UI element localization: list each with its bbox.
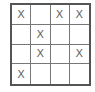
cell-r1-c0[interactable] bbox=[12, 25, 31, 45]
cell-r0-c1[interactable] bbox=[31, 5, 50, 25]
cell-r1-c1[interactable]: X bbox=[31, 25, 50, 45]
cell-r2-c3[interactable]: X bbox=[70, 45, 89, 65]
cell-r2-c1[interactable]: X bbox=[31, 45, 50, 65]
cell-r0-c3[interactable]: X bbox=[70, 5, 89, 25]
cell-r2-c2[interactable] bbox=[51, 45, 70, 65]
cell-r0-c0[interactable]: X bbox=[12, 5, 31, 25]
game-board: X X X X X X X bbox=[10, 3, 91, 86]
cell-r3-c0[interactable]: X bbox=[12, 64, 31, 84]
cell-r1-c2[interactable] bbox=[51, 25, 70, 45]
cell-r3-c2[interactable] bbox=[51, 64, 70, 84]
cell-r3-c3[interactable] bbox=[70, 64, 89, 84]
cell-r3-c1[interactable] bbox=[31, 64, 50, 84]
cell-r2-c0[interactable] bbox=[12, 45, 31, 65]
cell-r1-c3[interactable] bbox=[70, 25, 89, 45]
cell-r0-c2[interactable]: X bbox=[51, 5, 70, 25]
